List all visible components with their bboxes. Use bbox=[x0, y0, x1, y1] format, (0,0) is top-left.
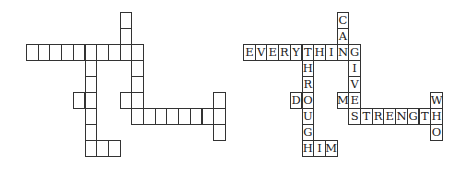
solution-cell: V bbox=[348, 76, 361, 93]
solution-cell: I bbox=[348, 60, 361, 77]
solution-cell: D bbox=[290, 92, 303, 109]
solution-cell: H bbox=[302, 60, 315, 77]
solution-cell: W bbox=[430, 92, 443, 109]
solution-cell: M bbox=[337, 92, 350, 109]
solution-cell: R bbox=[302, 76, 315, 93]
solution-cell: G bbox=[302, 124, 315, 141]
solved-crossword-grid: CANEVERYTHIGIVEHROUGHDMSTRENGTHWOIM bbox=[0, 0, 231, 172]
solution-cell: H bbox=[430, 108, 443, 125]
solution-cell: G bbox=[348, 44, 361, 61]
solution-cell: U bbox=[302, 108, 315, 125]
solution-cell: M bbox=[325, 140, 338, 157]
solution-cell: O bbox=[302, 92, 315, 109]
solution-cell: I bbox=[325, 44, 338, 61]
solution-cell: C bbox=[337, 12, 350, 29]
solution-cell: A bbox=[337, 28, 350, 45]
solution-cell: O bbox=[430, 124, 443, 141]
solution-cell: E bbox=[348, 92, 361, 109]
